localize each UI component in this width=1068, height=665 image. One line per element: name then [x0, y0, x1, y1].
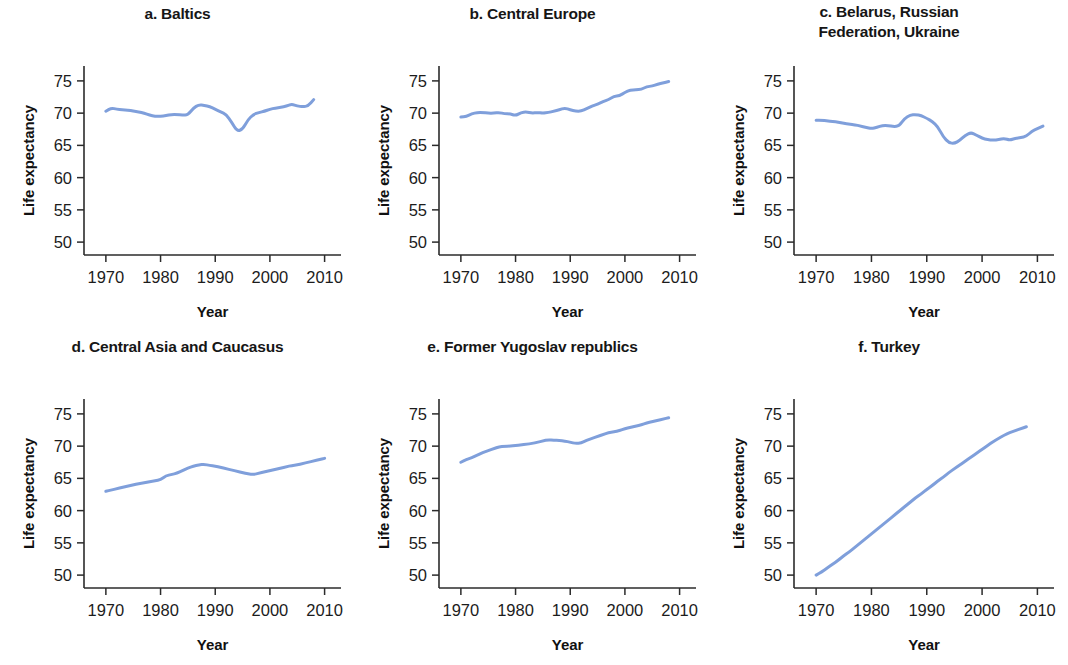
- plot-area: 50556065707519701980199020002010 Life ex…: [710, 333, 1068, 665]
- svg-text:60: 60: [764, 502, 782, 520]
- svg-text:1990: 1990: [197, 601, 234, 619]
- x-axis-label: Year: [84, 303, 341, 320]
- svg-text:2010: 2010: [661, 601, 698, 619]
- svg-text:70: 70: [409, 104, 427, 122]
- svg-text:70: 70: [409, 437, 427, 455]
- y-axis-label: Life expectancy: [20, 62, 37, 259]
- svg-text:65: 65: [764, 136, 782, 154]
- panel-c-belarus-russia-ukraine: c. Belarus, Russian Federation, Ukraine …: [710, 0, 1068, 333]
- y-axis-label: Life expectancy: [730, 395, 747, 592]
- plot-svg: 50556065707519701980199020002010: [0, 0, 355, 333]
- svg-text:55: 55: [54, 201, 72, 219]
- svg-text:50: 50: [54, 233, 72, 251]
- svg-text:2010: 2010: [306, 601, 343, 619]
- life-expectancy-multi-panel-figure: a. Baltics 50556065707519701980199020002…: [0, 0, 1068, 665]
- panel-a-baltics: a. Baltics 50556065707519701980199020002…: [0, 0, 355, 333]
- svg-text:1980: 1980: [497, 268, 534, 286]
- svg-text:75: 75: [764, 405, 782, 423]
- svg-text:1990: 1990: [908, 268, 945, 286]
- svg-text:65: 65: [54, 136, 72, 154]
- svg-text:60: 60: [54, 169, 72, 187]
- svg-text:2000: 2000: [964, 268, 1001, 286]
- plot-svg: 50556065707519701980199020002010: [355, 333, 710, 665]
- svg-text:75: 75: [764, 72, 782, 90]
- svg-text:55: 55: [764, 534, 782, 552]
- y-axis-label: Life expectancy: [375, 395, 392, 592]
- x-axis-label: Year: [439, 303, 696, 320]
- svg-text:75: 75: [54, 72, 72, 90]
- svg-text:2000: 2000: [252, 268, 289, 286]
- svg-text:60: 60: [764, 169, 782, 187]
- svg-text:1980: 1980: [142, 601, 179, 619]
- panel-b-central-europe: b. Central Europe 5055606570751970198019…: [355, 0, 710, 333]
- svg-text:65: 65: [409, 136, 427, 154]
- svg-text:1980: 1980: [497, 601, 534, 619]
- y-axis-label: Life expectancy: [375, 62, 392, 259]
- svg-text:70: 70: [54, 437, 72, 455]
- svg-text:1970: 1970: [443, 268, 480, 286]
- plot-svg: 50556065707519701980199020002010: [710, 0, 1068, 333]
- x-axis-label: Year: [794, 303, 1054, 320]
- svg-text:2000: 2000: [607, 268, 644, 286]
- plot-area: 50556065707519701980199020002010 Life ex…: [355, 0, 710, 333]
- svg-text:50: 50: [54, 566, 72, 584]
- svg-text:1980: 1980: [142, 268, 179, 286]
- svg-text:60: 60: [54, 502, 72, 520]
- svg-text:65: 65: [764, 469, 782, 487]
- plot-area: 50556065707519701980199020002010 Life ex…: [355, 333, 710, 665]
- svg-text:2000: 2000: [964, 601, 1001, 619]
- svg-text:50: 50: [409, 233, 427, 251]
- svg-text:1990: 1990: [552, 268, 589, 286]
- svg-text:55: 55: [409, 534, 427, 552]
- panel-e-former-yugoslav-republics: e. Former Yugoslav republics 50556065707…: [355, 333, 710, 665]
- svg-text:1980: 1980: [853, 268, 890, 286]
- plot-svg: 50556065707519701980199020002010: [0, 333, 355, 665]
- svg-text:50: 50: [409, 566, 427, 584]
- svg-text:55: 55: [54, 534, 72, 552]
- svg-text:50: 50: [764, 566, 782, 584]
- svg-text:2010: 2010: [1019, 268, 1056, 286]
- svg-text:2000: 2000: [607, 601, 644, 619]
- svg-text:2010: 2010: [1019, 601, 1056, 619]
- svg-text:1990: 1990: [197, 268, 234, 286]
- y-axis-label: Life expectancy: [730, 62, 747, 259]
- svg-text:65: 65: [54, 469, 72, 487]
- svg-text:60: 60: [409, 169, 427, 187]
- svg-text:60: 60: [409, 502, 427, 520]
- svg-text:1990: 1990: [908, 601, 945, 619]
- plot-svg: 50556065707519701980199020002010: [355, 0, 710, 333]
- x-axis-label: Year: [794, 636, 1054, 653]
- svg-text:1980: 1980: [853, 601, 890, 619]
- svg-text:2010: 2010: [661, 268, 698, 286]
- x-axis-label: Year: [439, 636, 696, 653]
- panel-d-central-asia-caucasus: d. Central Asia and Caucasus 50556065707…: [0, 333, 355, 665]
- svg-text:1970: 1970: [798, 601, 835, 619]
- panel-f-turkey: f. Turkey 505560657075197019801990200020…: [710, 333, 1068, 665]
- svg-text:2000: 2000: [252, 601, 289, 619]
- svg-text:75: 75: [409, 405, 427, 423]
- x-axis-label: Year: [84, 636, 341, 653]
- svg-text:75: 75: [54, 405, 72, 423]
- svg-text:50: 50: [764, 233, 782, 251]
- svg-text:70: 70: [54, 104, 72, 122]
- plot-area: 50556065707519701980199020002010 Life ex…: [0, 0, 355, 333]
- plot-area: 50556065707519701980199020002010 Life ex…: [710, 0, 1068, 333]
- y-axis-label: Life expectancy: [20, 395, 37, 592]
- svg-text:70: 70: [764, 437, 782, 455]
- svg-text:75: 75: [409, 72, 427, 90]
- svg-text:1970: 1970: [88, 601, 125, 619]
- plot-area: 50556065707519701980199020002010 Life ex…: [0, 333, 355, 665]
- svg-text:1970: 1970: [88, 268, 125, 286]
- svg-text:1970: 1970: [798, 268, 835, 286]
- svg-text:55: 55: [764, 201, 782, 219]
- svg-text:70: 70: [764, 104, 782, 122]
- svg-text:65: 65: [409, 469, 427, 487]
- svg-text:1990: 1990: [552, 601, 589, 619]
- plot-svg: 50556065707519701980199020002010: [710, 333, 1068, 665]
- svg-text:1970: 1970: [443, 601, 480, 619]
- svg-text:2010: 2010: [306, 268, 343, 286]
- svg-text:55: 55: [409, 201, 427, 219]
